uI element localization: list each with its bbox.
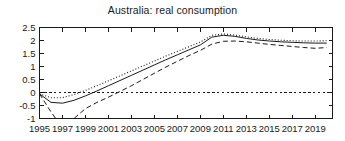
series-line-dashed xyxy=(40,41,327,128)
x-tick-label: 2009 xyxy=(190,123,211,134)
y-axis-tick-labels: 2.521.510.50-0.5-1 xyxy=(19,22,35,124)
x-tick-label: 1997 xyxy=(52,123,73,134)
y-tick-label: 2 xyxy=(30,35,35,46)
chart-figure: Australia: real consumption 2.521.510.50… xyxy=(0,0,345,141)
y-tick-label: 0.5 xyxy=(22,74,35,85)
x-tick-label: 2007 xyxy=(167,123,188,134)
axis-tick-marks xyxy=(40,28,333,119)
x-tick-label: 2017 xyxy=(282,123,303,134)
x-tick-label: 2011 xyxy=(213,123,233,134)
series-line-dotted xyxy=(40,34,327,98)
x-tick-label: 2005 xyxy=(144,123,165,134)
x-tick-label: 2001 xyxy=(98,123,119,134)
x-tick-label: 1999 xyxy=(75,123,96,134)
y-tick-label: 2.5 xyxy=(22,22,35,33)
data-series-group xyxy=(40,34,327,128)
x-tick-label: 2013 xyxy=(236,123,257,134)
x-tick-label: 2019 xyxy=(305,123,326,134)
y-tick-label: 1 xyxy=(30,61,35,72)
x-axis-tick-labels: 1995199719992001200320052007200920112013… xyxy=(29,123,326,134)
series-line-solid xyxy=(40,35,327,103)
y-tick-label: 1.5 xyxy=(22,48,35,59)
y-tick-label: 0 xyxy=(30,87,35,98)
axis-frame xyxy=(40,28,333,119)
y-tick-label: -0.5 xyxy=(19,100,35,111)
x-tick-label: 1995 xyxy=(29,123,50,134)
x-tick-label: 2003 xyxy=(121,123,142,134)
chart-plot-area: 2.521.510.50-0.5-1 199519971999200120032… xyxy=(0,0,345,141)
x-tick-label: 2015 xyxy=(259,123,280,134)
